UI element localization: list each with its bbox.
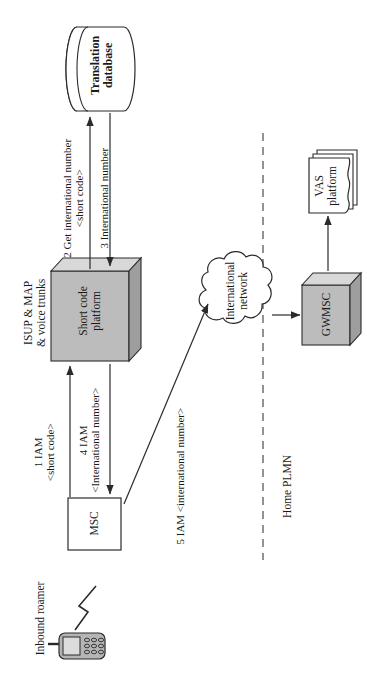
diagram-canvas: Translation database Short code platform… bbox=[0, 0, 367, 683]
mobile-phone-shape bbox=[48, 586, 105, 659]
international-network-shape bbox=[199, 252, 272, 324]
translation-database-shape bbox=[66, 27, 135, 111]
msc-shape bbox=[68, 498, 121, 550]
diagram-graphics bbox=[0, 0, 367, 683]
vas-platform-shape bbox=[309, 150, 357, 213]
gwmsc-shape bbox=[302, 273, 361, 345]
short-code-platform-shape bbox=[51, 258, 141, 361]
